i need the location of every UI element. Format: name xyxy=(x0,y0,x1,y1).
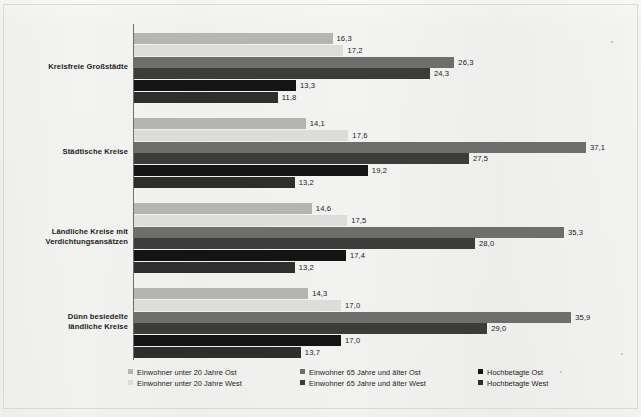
bar-value-label: 14,3 xyxy=(312,288,327,299)
scan-speck xyxy=(621,353,623,355)
scan-speck xyxy=(611,41,613,43)
legend-label: Einwohner 65 Jahre und älter West xyxy=(309,379,426,388)
legend-swatch-icon xyxy=(478,380,483,385)
legend-item: Einwohner unter 20 Jahre West xyxy=(128,379,242,389)
bar xyxy=(134,177,295,188)
legend-label: Einwohner 65 Jahre und älter Ost xyxy=(309,368,421,377)
bar xyxy=(134,215,347,226)
bar-value-label: 11,8 xyxy=(282,92,297,103)
bar-value-label: 17,4 xyxy=(350,250,365,261)
legend-label: Einwohner unter 20 Jahre Ost xyxy=(137,368,237,377)
bar-value-label: 35,3 xyxy=(568,227,583,238)
bar xyxy=(134,33,333,44)
bar xyxy=(134,165,368,176)
scan-speck xyxy=(560,371,562,373)
category-label: Dünn besiedelteländliche Kreise xyxy=(6,312,128,333)
bar-value-label: 17,6 xyxy=(352,130,367,141)
legend-item: Hochbetagte Ost xyxy=(478,368,543,378)
legend-label: Hochbetagte Ost xyxy=(487,368,543,377)
bar xyxy=(134,68,430,79)
bar xyxy=(134,312,571,323)
category-label: Kreisfreie Großstädte xyxy=(6,62,128,73)
bar-value-label: 17,0 xyxy=(345,335,360,346)
chart-legend: Einwohner unter 20 Jahre OstEinwohner un… xyxy=(128,368,628,392)
category-label: Ländliche Kreise mitVerdichtungsansätzen xyxy=(6,227,128,248)
bar-chart: Kreisfreie GroßstädteStädtische KreiseLä… xyxy=(0,0,641,417)
bar xyxy=(134,92,278,103)
category-label-line: Städtische Kreise xyxy=(6,147,128,158)
bar-value-label: 29,0 xyxy=(491,323,506,334)
legend-item: Einwohner unter 20 Jahre Ost xyxy=(128,368,237,378)
legend-item: Einwohner 65 Jahre und älter West xyxy=(300,379,426,389)
category-label-line: Ländliche Kreise mit xyxy=(6,227,128,238)
legend-item: Hochbetagte West xyxy=(478,379,548,389)
bar-value-label: 17,2 xyxy=(347,45,362,56)
bar xyxy=(134,238,475,249)
bar xyxy=(134,45,343,56)
bar-value-label: 13,3 xyxy=(300,80,315,91)
legend-swatch-icon xyxy=(128,380,133,385)
bar xyxy=(134,153,469,164)
legend-label: Einwohner unter 20 Jahre West xyxy=(137,379,242,388)
bar-value-label: 26,3 xyxy=(458,57,473,68)
legend-label: Hochbetagte West xyxy=(487,379,548,388)
bar-value-label: 27,5 xyxy=(473,153,488,164)
category-label-line: Kreisfreie Großstädte xyxy=(6,62,128,73)
bar xyxy=(134,57,454,68)
legend-item: Einwohner 65 Jahre und älter Ost xyxy=(300,368,421,378)
legend-swatch-icon xyxy=(478,369,483,374)
bar xyxy=(134,262,295,273)
bar-value-label: 13,2 xyxy=(299,177,314,188)
bar-value-label: 19,2 xyxy=(372,165,387,176)
bar-value-label: 14,1 xyxy=(310,118,325,129)
bar xyxy=(134,300,341,311)
category-label-line: ländliche Kreise xyxy=(6,322,128,333)
category-label-line: Verdichtungsansätzen xyxy=(6,237,128,248)
legend-swatch-icon xyxy=(300,369,305,374)
bar-value-label: 37,1 xyxy=(590,142,605,153)
category-label-line: Dünn besiedelte xyxy=(6,312,128,323)
bar xyxy=(134,80,296,91)
bar-value-label: 17,0 xyxy=(345,300,360,311)
bar xyxy=(134,347,301,358)
bar xyxy=(134,323,487,334)
bar xyxy=(134,142,586,153)
category-label: Städtische Kreise xyxy=(6,147,128,158)
bar xyxy=(134,118,306,129)
bar-value-label: 17,5 xyxy=(351,215,366,226)
bar-value-label: 13,2 xyxy=(299,262,314,273)
bar-value-label: 13,7 xyxy=(305,347,320,358)
bar-value-label: 14,6 xyxy=(316,203,331,214)
bar xyxy=(134,288,308,299)
bar xyxy=(134,130,348,141)
bar-value-label: 24,3 xyxy=(434,68,449,79)
bar xyxy=(134,227,564,238)
bar xyxy=(134,203,312,214)
bar-value-label: 28,0 xyxy=(479,238,494,249)
bar xyxy=(134,250,346,261)
bar-value-label: 16,3 xyxy=(337,33,352,44)
bar-value-label: 35,9 xyxy=(575,312,590,323)
bar xyxy=(134,335,341,346)
legend-swatch-icon xyxy=(300,380,305,385)
legend-swatch-icon xyxy=(128,369,133,374)
